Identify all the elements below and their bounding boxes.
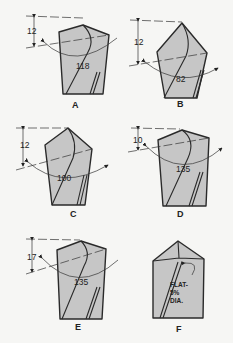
point-angle-c: 100	[57, 173, 71, 183]
drill-body-c	[45, 128, 92, 205]
lip-height-d: 10	[133, 135, 143, 145]
panel-label-a: A	[72, 100, 79, 110]
point-angle-d: 135	[176, 164, 190, 174]
panel-e: 17 135 E	[26, 239, 118, 332]
panel-d: 10 135 D	[128, 128, 222, 219]
point-angle-e: 135	[74, 277, 88, 287]
point-angle-a: 118	[76, 61, 90, 71]
lip-height-a: 12	[27, 26, 37, 36]
panel-label-c: C	[70, 209, 77, 219]
panel-label-b: B	[177, 99, 184, 109]
panel-f: FLAT- 5% DIA. F	[153, 241, 204, 334]
panel-label-f: F	[176, 324, 182, 334]
point-angle-b: 82	[176, 74, 186, 84]
lip-height-e: 17	[27, 252, 37, 262]
panel-b: 12 82 B	[129, 20, 218, 109]
flat-note-line1: FLAT-	[170, 281, 188, 288]
panel-label-d: D	[177, 209, 184, 219]
flat-note-line3: DIA.	[170, 297, 183, 304]
panel-c: 12 100 C	[16, 128, 108, 219]
lip-height-c: 12	[20, 140, 30, 150]
flat-note-line2: 5%	[170, 289, 180, 296]
panel-label-e: E	[75, 322, 81, 332]
drill-points-diagram: 12 118 A 12 82 B 12 100 C 10 135 D	[0, 0, 233, 343]
lip-height-b: 12	[134, 37, 144, 47]
panel-a: 12 118 A	[26, 16, 117, 110]
